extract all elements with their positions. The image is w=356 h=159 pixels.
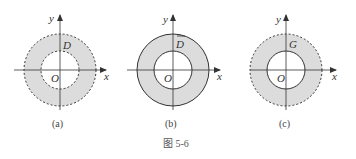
origin-label: O (164, 72, 172, 84)
region-label: G (289, 38, 297, 50)
figure-5-6: y x O D (a) y x O D (b) y x O G (c) 图 5-… (0, 0, 356, 159)
origin-label: O (277, 72, 285, 84)
x-axis-label: x (103, 70, 109, 82)
panel-c: y x O G (c) (250, 13, 337, 130)
panel-a: y x O D (a) (14, 12, 109, 130)
panel-sublabel: (b) (165, 118, 177, 130)
figure-caption: 图 5-6 (163, 138, 189, 149)
y-axis-label: y (275, 13, 281, 25)
y-axis-label: y (162, 13, 168, 25)
region-label: D (62, 39, 71, 51)
y-axis-label: y (48, 12, 54, 24)
origin-label: O (51, 72, 59, 84)
region-label-closure: D (175, 38, 184, 50)
panel-sublabel: (a) (52, 118, 63, 130)
panel-b: y x O D (b) (127, 13, 222, 130)
x-axis-label: x (331, 70, 337, 82)
x-axis-label: x (216, 70, 222, 82)
panel-sublabel: (c) (279, 118, 290, 130)
